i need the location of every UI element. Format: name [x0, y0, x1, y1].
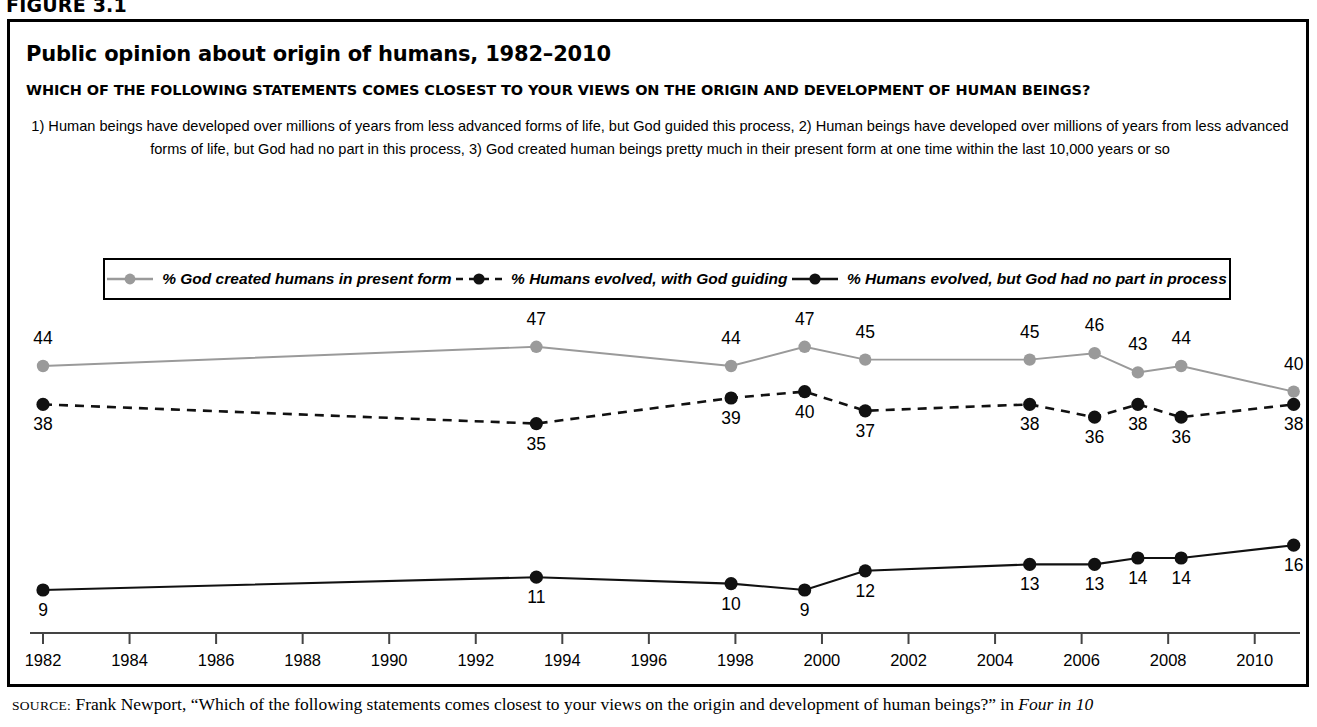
series-line-1	[43, 392, 1294, 424]
survey-question: WHICH OF THE FOLLOWING STATEMENTS COMES …	[26, 82, 1090, 98]
data-point-label: 13	[1020, 574, 1039, 595]
chart-legend: % God created humans in present form % H…	[103, 258, 1231, 300]
series-line-2	[43, 545, 1294, 590]
source-title-italic: Four in 10	[1018, 694, 1093, 714]
data-point	[724, 391, 737, 404]
data-point	[1088, 558, 1101, 571]
legend-marker-solid-black-icon	[792, 271, 838, 287]
data-point	[1175, 360, 1187, 372]
x-axis-tick-label: 2002	[890, 651, 927, 670]
data-point	[1175, 551, 1188, 564]
answer-options-line1: 1) Human beings have developed over mill…	[31, 118, 1191, 134]
answer-options-text: 1) Human beings have developed over mill…	[26, 115, 1294, 161]
x-axis-tick-label: 1982	[25, 651, 62, 670]
data-point-label: 9	[800, 600, 810, 621]
data-point-label: 38	[1284, 414, 1303, 435]
data-point-label: 47	[527, 309, 546, 330]
data-point-label: 43	[1128, 334, 1147, 355]
x-axis-tick-label: 2008	[1150, 651, 1187, 670]
x-axis-tick-label: 1992	[457, 651, 494, 670]
legend-marker-dashed-black-icon	[456, 271, 502, 287]
legend-item-god-created[interactable]: % God created humans in present form	[107, 270, 451, 288]
x-axis-tick-label: 1994	[544, 651, 581, 670]
data-point	[1088, 411, 1101, 424]
legend-label-evolved-god-guiding: % Humans evolved, with God guiding	[511, 270, 787, 288]
x-axis-tick-label: 2004	[977, 651, 1014, 670]
data-point	[530, 571, 543, 584]
data-point	[1023, 353, 1035, 365]
legend-item-evolved-god-guiding[interactable]: % Humans evolved, with God guiding	[456, 270, 787, 288]
data-point	[1175, 411, 1188, 424]
page-title: Public opinion about origin of humans, 1…	[26, 42, 611, 66]
data-point	[859, 564, 872, 577]
data-point	[1088, 347, 1100, 359]
data-point	[530, 341, 542, 353]
data-point	[36, 583, 49, 596]
data-point-label: 45	[856, 322, 875, 343]
figure-number: FIGURE 3.1	[6, 0, 127, 16]
series-line-0	[43, 347, 1294, 392]
data-point-label: 40	[1284, 354, 1303, 375]
data-point-label: 44	[721, 328, 740, 349]
data-point-label: 38	[1128, 414, 1147, 435]
data-point-label: 46	[1085, 315, 1104, 336]
data-point-label: 45	[1020, 322, 1039, 343]
data-point	[36, 398, 49, 411]
data-point	[1023, 398, 1036, 411]
data-point-label: 9	[38, 600, 48, 621]
data-point	[1132, 366, 1144, 378]
data-point	[1287, 398, 1300, 411]
data-point-label: 39	[721, 408, 740, 429]
source-prefix: SOURCE:	[12, 698, 71, 713]
data-point-label: 13	[1085, 574, 1104, 595]
legend-marker-solid-gray-icon	[107, 271, 153, 287]
data-point	[1023, 558, 1036, 571]
legend-item-evolved-no-god[interactable]: % Humans evolved, but God had no part in…	[792, 270, 1227, 288]
x-axis-tick-label: 2010	[1236, 651, 1273, 670]
data-point	[724, 577, 737, 590]
source-text: Frank Newport, “Which of the following s…	[71, 694, 1018, 714]
legend-label-god-created: % God created humans in present form	[162, 270, 451, 288]
data-point-label: 10	[721, 594, 740, 615]
x-axis-tick-label: 1984	[111, 651, 148, 670]
data-point	[530, 417, 543, 430]
source-note: SOURCE: Frank Newport, “Which of the fol…	[12, 694, 1312, 715]
x-axis-tick-label: 2006	[1063, 651, 1100, 670]
data-point-label: 44	[33, 328, 52, 349]
data-point-label: 38	[33, 414, 52, 435]
data-point-label: 14	[1128, 568, 1147, 589]
data-point	[798, 583, 811, 596]
legend-label-evolved-no-god: % Humans evolved, but God had no part in…	[847, 270, 1227, 288]
data-point	[798, 385, 811, 398]
figure-root: FIGURE 3.1 Public opinion about origin o…	[0, 0, 1317, 727]
x-axis-tick-label: 1988	[284, 651, 321, 670]
data-point	[1131, 398, 1144, 411]
data-point-label: 38	[1020, 414, 1039, 435]
data-point	[859, 353, 871, 365]
data-point	[1287, 539, 1300, 552]
data-point-label: 12	[856, 581, 875, 602]
data-point	[859, 404, 872, 417]
data-point	[1131, 551, 1144, 564]
data-point-label: 37	[856, 421, 875, 442]
data-point	[1287, 385, 1299, 397]
data-point-label: 14	[1171, 568, 1190, 589]
data-point-label: 47	[795, 309, 814, 330]
data-point-label: 40	[795, 402, 814, 423]
data-point-label: 35	[527, 434, 546, 455]
data-point	[798, 341, 810, 353]
data-point-label: 36	[1085, 427, 1104, 448]
x-axis-tick-label: 1998	[717, 651, 754, 670]
x-axis-tick-label: 1986	[198, 651, 235, 670]
data-point-label: 36	[1171, 427, 1190, 448]
data-point-label: 44	[1171, 328, 1190, 349]
x-axis-tick-label: 1996	[631, 651, 668, 670]
data-point-label: 16	[1284, 555, 1303, 576]
figure-panel: Public opinion about origin of humans, 1…	[7, 19, 1309, 687]
data-point-label: 11	[527, 587, 545, 608]
x-axis-tick-label: 2000	[804, 651, 841, 670]
x-axis-tick-label: 1990	[371, 651, 408, 670]
data-point	[725, 360, 737, 372]
data-point	[37, 360, 49, 372]
